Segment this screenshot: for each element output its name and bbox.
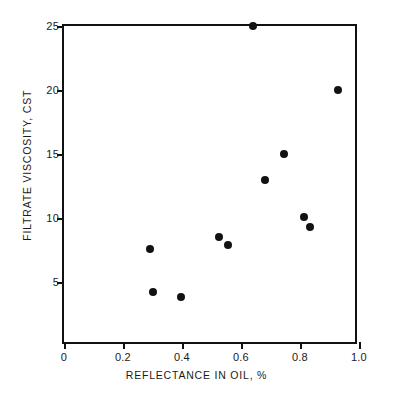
plot-area: 510152025 00.20.40.60.81.0 — [62, 24, 357, 344]
data-point — [334, 86, 342, 94]
x-tick-mark — [241, 342, 243, 349]
data-point — [177, 293, 185, 301]
x-tick-mark — [64, 342, 66, 349]
x-tick-label: 0.4 — [174, 352, 190, 363]
y-tick-label: 15 — [46, 149, 59, 160]
y-tick-label: 10 — [46, 213, 59, 224]
data-point — [306, 223, 314, 231]
x-tick-mark — [300, 342, 302, 349]
data-point — [300, 213, 308, 221]
x-tick-mark — [359, 342, 361, 349]
scatter-chart-figure: 510152025 00.20.40.60.81.0 FILTRATE VISC… — [0, 0, 393, 399]
x-tick-label: 0.6 — [233, 352, 249, 363]
x-axis-title: REFLECTANCE IN OIL, % — [0, 370, 393, 381]
y-tick-label: 5 — [53, 277, 59, 288]
y-tick-label: 25 — [46, 21, 59, 32]
x-tick-mark — [182, 342, 184, 349]
data-point — [280, 150, 288, 158]
y-axis-title: FILTRATE VISCOSITY, CST — [22, 65, 33, 265]
data-point — [249, 22, 257, 30]
x-tick-label: 1.0 — [351, 352, 367, 363]
x-tick-label: 0 — [61, 352, 67, 363]
data-point — [215, 233, 223, 241]
y-tick-label: 20 — [46, 85, 59, 96]
x-tick-mark — [123, 342, 125, 349]
data-point — [224, 241, 232, 249]
data-point — [261, 176, 269, 184]
x-tick-label: 0.8 — [292, 352, 308, 363]
x-tick-label: 0.2 — [115, 352, 131, 363]
data-point — [149, 288, 157, 296]
data-point — [146, 245, 154, 253]
